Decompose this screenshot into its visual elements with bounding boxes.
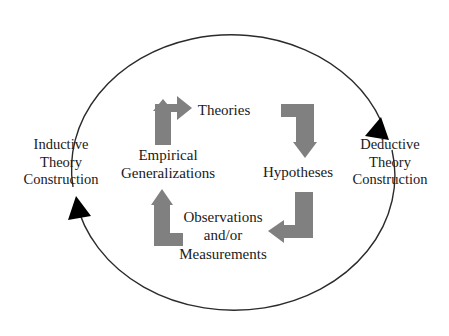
- node-label-observations: Observations and/or Measurements: [157, 208, 289, 263]
- node-label-hypotheses: Hypotheses: [244, 163, 352, 181]
- wheel-of-science-diagram: Inductive Theory Construction Deductive …: [0, 0, 449, 336]
- label-deductive-theory-construction: Deductive Theory Construction: [336, 136, 444, 189]
- node-label-empirical-generalizations: Empirical Generalizations: [110, 146, 226, 183]
- inductive-arrowhead-icon: [68, 196, 91, 220]
- node-label-theories: Theories: [168, 101, 280, 119]
- arrow-theories-to-hypotheses-icon: [281, 104, 317, 158]
- label-inductive-theory-construction: Inductive Theory Construction: [8, 136, 114, 189]
